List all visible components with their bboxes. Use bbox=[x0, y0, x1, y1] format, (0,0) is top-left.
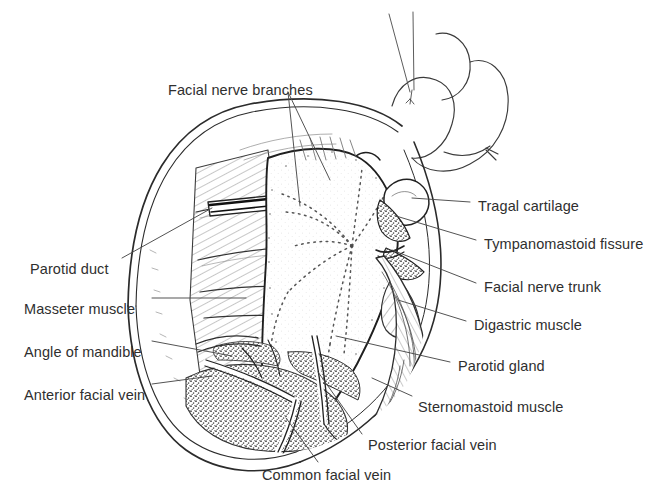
label-common-facial-vein: Common facial vein bbox=[262, 467, 391, 483]
label-masseter-muscle: Masseter muscle bbox=[24, 301, 135, 317]
label-anterior-facial-vein: Anterior facial vein bbox=[24, 387, 145, 403]
label-sternomastoid-muscle: Sternomastoid muscle bbox=[418, 399, 563, 415]
label-facial-nerve-branches: Facial nerve branches bbox=[168, 82, 313, 98]
label-posterior-facial-vein: Posterior facial vein bbox=[368, 437, 497, 453]
label-angle-of-mandible: Angle of mandible bbox=[24, 344, 142, 360]
anatomical-figure: Facial nerve branches Tragal cartilage T… bbox=[0, 0, 672, 494]
label-tragal-cartilage: Tragal cartilage bbox=[478, 198, 579, 214]
label-tympanomastoid-fissure: Tympanomastoid fissure bbox=[484, 236, 643, 252]
label-digastric-muscle: Digastric muscle bbox=[474, 317, 582, 333]
label-parotid-duct: Parotid duct bbox=[30, 261, 109, 277]
label-parotid-gland: Parotid gland bbox=[458, 358, 545, 374]
label-facial-nerve-trunk: Facial nerve trunk bbox=[484, 279, 601, 295]
auricle bbox=[392, 33, 508, 171]
facial-nerve-branch-leaders-ear bbox=[389, 12, 414, 104]
